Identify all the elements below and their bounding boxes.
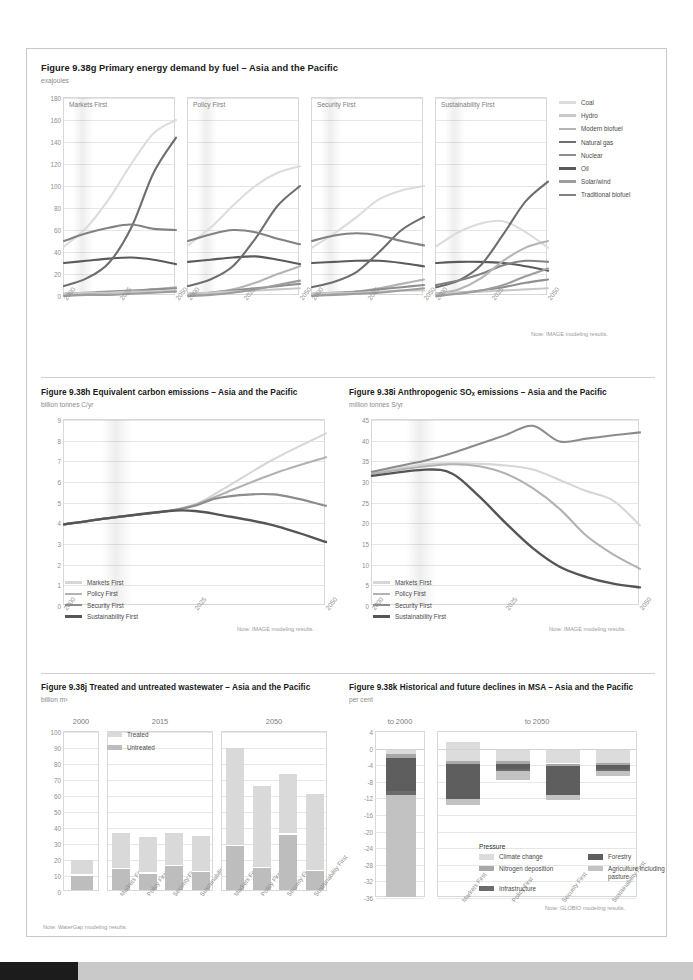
legend-label: Sustainability First xyxy=(395,613,446,620)
figure-9-38g-title: Figure 9.38g Primary energy demand by fu… xyxy=(41,63,655,73)
page-bottom-bar xyxy=(0,962,693,980)
legend-label: Nitrogen deposition xyxy=(499,865,553,873)
legend-label: Hydro xyxy=(581,112,598,119)
figure-9-38g-ytick: 120 xyxy=(50,161,61,168)
legend-item-coal: Coal xyxy=(559,99,630,106)
legend-item-sustainability-first: Sustainability First xyxy=(373,613,446,620)
figure-9-38k-ytick: 0 xyxy=(369,745,373,752)
legend-label: Nuclear xyxy=(581,152,603,159)
legend-swatch-icon xyxy=(479,866,494,872)
figure-9-38k-ytick: -8 xyxy=(367,778,373,785)
legend-label: Agriculture including pasture xyxy=(608,865,686,881)
figure-9-38h-title: Figure 9.38h Equivalent carbon emissions… xyxy=(41,387,341,397)
figure-9-38k-panel-0: 40-4-8-12-16-20-24-28-32-36 xyxy=(375,731,425,897)
gridline xyxy=(64,732,98,733)
legend-label: Markets First xyxy=(87,579,123,586)
legend-item-nitrogen-deposition: Nitrogen deposition xyxy=(479,865,584,881)
legend-swatch-icon xyxy=(107,745,122,751)
figure-9-38i-unit: million tonnes S/yr xyxy=(349,401,655,408)
figure-9-38j-ytick: 80 xyxy=(54,761,61,768)
figure-9-38j-ytick: 40 xyxy=(54,825,61,832)
gridline xyxy=(438,832,636,833)
figure-9-38j-ytick: 70 xyxy=(54,777,61,784)
gridline xyxy=(64,812,98,813)
zero-line xyxy=(438,749,636,750)
figure-9-38j-panel-2000: 0102030405060708090100 xyxy=(63,731,99,891)
figure-9-38j-panel-2050: Markets FirstPolicy FirstSecurity FirstS… xyxy=(221,731,327,891)
fig-9-38h-xtick: 2050 xyxy=(324,596,338,612)
legend-swatch-icon xyxy=(559,154,576,156)
legend-label: Security First xyxy=(87,602,124,609)
legend-item-solar-wind: Solar/wind xyxy=(559,178,630,185)
legend-label: Sustainability First xyxy=(87,613,138,620)
figure-9-38g-ytick: 40 xyxy=(54,249,61,256)
legend-item-treated: Treated xyxy=(107,731,155,738)
legend-swatch-icon xyxy=(373,593,390,595)
figure-9-38h: Figure 9.38h Equivalent carbon emissions… xyxy=(41,387,341,667)
legend-swatch-icon xyxy=(107,732,122,738)
figure-9-38k-ytick: -24 xyxy=(364,845,373,852)
figure-9-38k-group-label-0: to 2000 xyxy=(375,717,425,726)
figure-9-38k-ytick: -4 xyxy=(367,762,373,769)
legend-item-markets-first: Markets First xyxy=(65,579,138,586)
legend-item-nuclear: Nuclear xyxy=(559,152,630,159)
legend-label: Oil xyxy=(581,165,589,172)
figure-9-38j-ytick: 100 xyxy=(50,729,61,736)
fig-9-38i-ytick: 25 xyxy=(362,499,369,506)
fig-9-38i-ytick: 0 xyxy=(365,603,369,610)
zero-line xyxy=(376,749,424,750)
legend-title: Pressure xyxy=(479,843,693,850)
figure-9-38k: Figure 9.38k Historical and future decli… xyxy=(349,683,655,933)
fig-9-38i-plot: 051015202530354045200020252050 xyxy=(371,419,639,605)
fig-9-38h-ytick: 1 xyxy=(57,582,61,589)
fig-9-38h-ytick: 8 xyxy=(57,437,61,444)
figure-9-38g-ytick: 20 xyxy=(54,271,61,278)
fig-9-38h-ytick: 9 xyxy=(57,417,61,424)
figure-9-38i: Figure 9.38i Anthropogenic SOₓ emissions… xyxy=(349,387,655,667)
figure-9-38g-panel-3: Security First200020252050 xyxy=(311,97,423,295)
legend-swatch-icon xyxy=(373,581,390,583)
gridline xyxy=(64,828,98,829)
legend-swatch-icon xyxy=(559,101,576,103)
bar-segment xyxy=(386,795,416,897)
gridline xyxy=(376,898,424,899)
figure-9-38g: Figure 9.38g Primary energy demand by fu… xyxy=(41,63,655,363)
gridline xyxy=(64,796,98,797)
gridline xyxy=(108,780,212,781)
figure-9-38k-ytick: -12 xyxy=(364,795,373,802)
legend-label: Modern biofuel xyxy=(581,125,623,132)
legend-item-sustainability-first: Sustainability First xyxy=(65,613,138,620)
legend-item-hydro: Hydro xyxy=(559,112,630,119)
figure-9-38g-panel-4: Sustainability First200020252050 xyxy=(435,97,547,295)
gridline xyxy=(108,812,212,813)
bar-segment-divider xyxy=(226,845,244,846)
figure-9-38i-title: Figure 9.38i Anthropogenic SOₓ emissions… xyxy=(349,387,655,397)
figure-9-38h-legend: Markets FirstPolicy FirstSecurity FirstS… xyxy=(65,579,138,625)
legend-item-oil: Oil xyxy=(559,165,630,172)
fig-9-38i-ytick: 5 xyxy=(365,582,369,589)
legend-item-climate-change: Climate change xyxy=(479,853,584,861)
divider-2 xyxy=(41,673,655,674)
legend-swatch-icon xyxy=(588,866,603,872)
fig-9-38h-plot: 0123456789200020252050 xyxy=(63,419,325,605)
figure-9-38k-ytick: 4 xyxy=(369,729,373,736)
fig-9-38h-ytick: 5 xyxy=(57,499,61,506)
figure-9-38g-ytick: 80 xyxy=(54,205,61,212)
legend-item-natural-gas: Natural gas xyxy=(559,139,630,146)
legend-swatch-icon xyxy=(65,581,82,583)
legend-label: Untreated xyxy=(127,744,155,751)
legend-item-security-first: Security First xyxy=(65,602,138,609)
figure-9-38j-ytick: 20 xyxy=(54,857,61,864)
figure-9-38k-note: Note: GLOBIO modeling results. xyxy=(545,905,625,911)
page-bottom-bar-marker xyxy=(0,962,78,980)
gridline xyxy=(64,844,98,845)
legend-swatch-icon xyxy=(559,167,576,169)
figure-9-38j-ytick: 10 xyxy=(54,873,61,880)
bar-segment xyxy=(496,749,530,761)
fig-9-38h-ytick: 4 xyxy=(57,520,61,527)
report-page-frame: Figure 9.38g Primary energy demand by fu… xyxy=(26,48,667,937)
bar-segment-divider xyxy=(139,872,157,873)
figure-9-38g-note: Note: IMAGE modeling results. xyxy=(531,331,608,337)
bar-segment xyxy=(546,749,580,764)
legend-label: Natural gas xyxy=(581,139,613,146)
